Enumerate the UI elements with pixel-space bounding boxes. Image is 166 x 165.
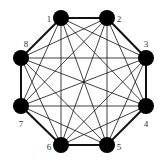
edge-5-8: [21, 58, 107, 145]
node-7: [13, 98, 29, 114]
node-label-4: 4: [144, 119, 149, 129]
node-label-5: 5: [117, 142, 122, 152]
node-2: [99, 10, 115, 26]
edges: [21, 18, 146, 145]
node-label-2: 2: [117, 14, 122, 24]
node-6: [53, 137, 69, 153]
node-5: [99, 137, 115, 153]
node-1: [53, 10, 69, 26]
node-label-3: 3: [144, 39, 149, 49]
node-3: [138, 50, 154, 66]
nodes: 12345678: [13, 10, 154, 153]
node-label-7: 7: [19, 119, 24, 129]
node-label-8: 8: [24, 39, 29, 49]
node-4: [138, 98, 154, 114]
edge-6-7: [21, 106, 61, 145]
edge-2-7: [21, 18, 107, 106]
node-label-1: 1: [47, 14, 52, 24]
node-8: [13, 50, 29, 66]
edge-4-5: [107, 106, 146, 145]
edge-2-3: [107, 18, 146, 58]
node-label-6: 6: [47, 142, 52, 152]
edge-1-8: [21, 18, 61, 58]
graph-diagram: 12345678: [0, 0, 166, 165]
edge-1-4: [61, 18, 146, 106]
